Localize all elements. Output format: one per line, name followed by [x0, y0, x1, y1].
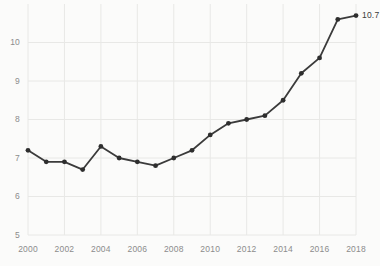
x-axis-tick-label: 2008 [154, 244, 194, 254]
grid-lines [28, 4, 356, 235]
x-axis-tick-label: 2014 [263, 244, 303, 254]
series-markers [26, 13, 359, 172]
y-axis-tick-label: 6 [0, 191, 20, 201]
chart-plot-area [0, 0, 380, 266]
x-axis-tick-label: 2006 [117, 244, 157, 254]
y-axis-tick-label: 8 [0, 114, 20, 124]
y-axis-tick-label: 5 [0, 230, 20, 240]
y-axis-tick-label: 9 [0, 76, 20, 86]
series-line [28, 16, 356, 170]
x-axis-tick-label: 2018 [336, 244, 376, 254]
last-value-annotation: 10.7 [362, 10, 379, 20]
y-axis-tick-label: 10 [0, 37, 20, 47]
x-axis-tick-label: 2004 [81, 244, 121, 254]
x-axis-tick-label: 2012 [227, 244, 267, 254]
x-axis-tick-label: 2010 [190, 244, 230, 254]
y-axis-tick-label: 7 [0, 153, 20, 163]
x-axis-tick-label: 2002 [44, 244, 84, 254]
x-axis-tick-label: 2016 [300, 244, 340, 254]
x-axis-tick-label: 2000 [8, 244, 48, 254]
line-chart: 5678910 20002002200420062008201020122014… [0, 0, 380, 266]
